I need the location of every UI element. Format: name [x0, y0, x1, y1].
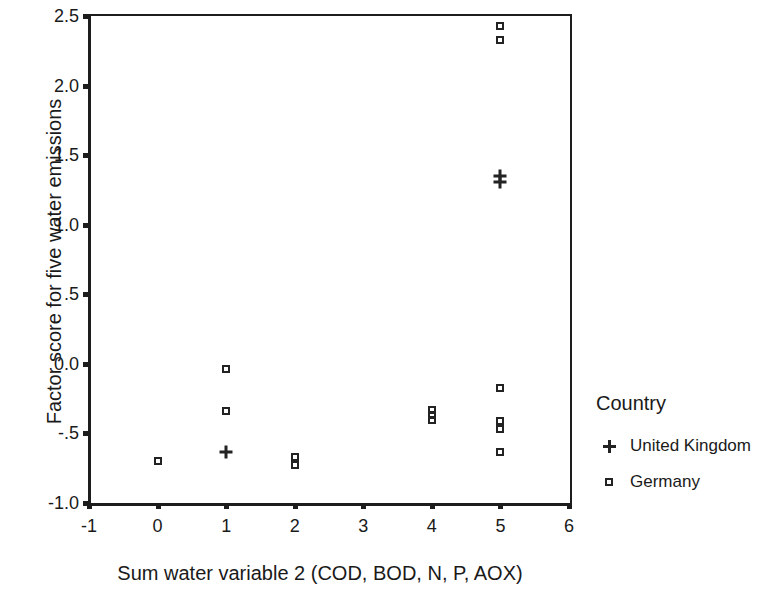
x-tick-mark [498, 503, 503, 509]
data-point-square [496, 384, 504, 392]
legend-label: United Kingdom [630, 436, 751, 456]
data-point-square [496, 448, 504, 456]
x-tick-mark [430, 503, 435, 509]
x-tick-mark [567, 503, 572, 509]
x-tick-label: -1 [81, 516, 97, 537]
x-tick-label: 4 [427, 516, 437, 537]
y-tick-label: 1.5 [54, 145, 79, 166]
data-point-square [291, 453, 299, 461]
x-tick-label: 3 [358, 516, 368, 537]
data-point-square [496, 22, 504, 30]
x-tick-label: 1 [221, 516, 231, 537]
legend-marker-plus-icon [596, 438, 622, 454]
square-marker-icon [605, 478, 613, 486]
legend-entry: Germany [596, 469, 758, 495]
data-point-plus [494, 170, 507, 183]
legend: Country United KingdomGermany [596, 392, 758, 505]
y-tick-mark [83, 362, 89, 367]
plot-right-border [570, 14, 572, 506]
y-tick-label: -1.0 [48, 493, 79, 514]
x-tick-mark [224, 503, 229, 509]
y-tick-mark [83, 223, 89, 228]
legend-entry: United Kingdom [596, 433, 758, 459]
y-tick-label: 2.0 [54, 75, 79, 96]
data-point-square [496, 36, 504, 44]
legend-marker-square-icon [596, 474, 622, 490]
y-tick-label: 1.0 [54, 214, 79, 235]
y-tick-label: 2.5 [54, 6, 79, 27]
x-tick-label: 6 [564, 516, 574, 537]
y-tick-label: 0.0 [54, 353, 79, 374]
data-point-plus [220, 445, 233, 458]
data-point-square [496, 417, 504, 425]
x-tick-label: 0 [153, 516, 163, 537]
y-tick-mark [83, 14, 89, 19]
y-tick-mark [83, 292, 89, 297]
data-point-square [496, 425, 504, 433]
y-tick-mark [83, 431, 89, 436]
x-tick-label: 5 [495, 516, 505, 537]
x-axis-title: Sum water variable 2 (COD, BOD, N, P, AO… [60, 562, 580, 585]
legend-label: Germany [630, 472, 700, 492]
data-point-square [291, 461, 299, 469]
y-tick-label: -.5 [58, 423, 79, 444]
x-tick-label: 2 [290, 516, 300, 537]
x-tick-mark [156, 503, 161, 509]
data-point-square [154, 457, 162, 465]
y-tick-mark [83, 84, 89, 89]
plot-area: -1.0-.50.0.51.01.52.02.5 -10123456 [88, 14, 572, 506]
data-point-square [222, 365, 230, 373]
y-tick-mark [83, 153, 89, 158]
scatter-plot-figure: Factor score for five water emissions -1… [0, 0, 758, 599]
legend-title: Country [596, 392, 758, 415]
y-tick-label: .5 [64, 284, 79, 305]
x-tick-mark [293, 503, 298, 509]
data-point-square [222, 407, 230, 415]
legend-entries: United KingdomGermany [596, 433, 758, 495]
x-tick-mark [361, 503, 366, 509]
x-tick-mark [87, 503, 92, 509]
plus-marker-icon [603, 440, 616, 453]
data-point-square [428, 416, 436, 424]
plot-top-border [88, 14, 572, 16]
